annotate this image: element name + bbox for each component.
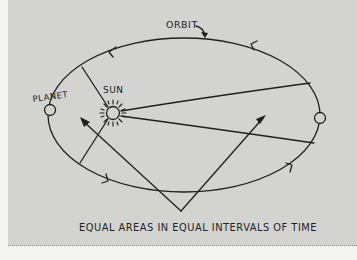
orbit-label: ORBIT [166, 19, 198, 30]
area-pointer-left [83, 121, 181, 211]
orbit-ellipse [48, 38, 320, 192]
figure-caption: EQUAL AREAS IN EQUAL INTERVALS OF TIME [79, 222, 317, 233]
area-pointer-right-arrowhead-icon [256, 115, 266, 124]
planet-icon-right [315, 113, 326, 124]
planet-icon-left [45, 105, 56, 116]
sun-icon [100, 100, 126, 126]
radius-line-upper-right [121, 83, 310, 111]
orbit-direction-arrow-top-left [109, 47, 116, 57]
kepler-second-law-diagram: ORBIT PLANET SUN EQUAL AREAS IN EQUAL IN… [0, 0, 357, 260]
orbit-direction-arrow-bottom-right [286, 163, 292, 172]
orbit-direction-arrow-bottom-left [102, 174, 108, 183]
sun-label: SUN [103, 85, 124, 95]
orbit-label-arrowhead-icon [201, 32, 208, 38]
radius-line-lower-right [121, 116, 314, 143]
area-pointer-right [181, 118, 263, 211]
